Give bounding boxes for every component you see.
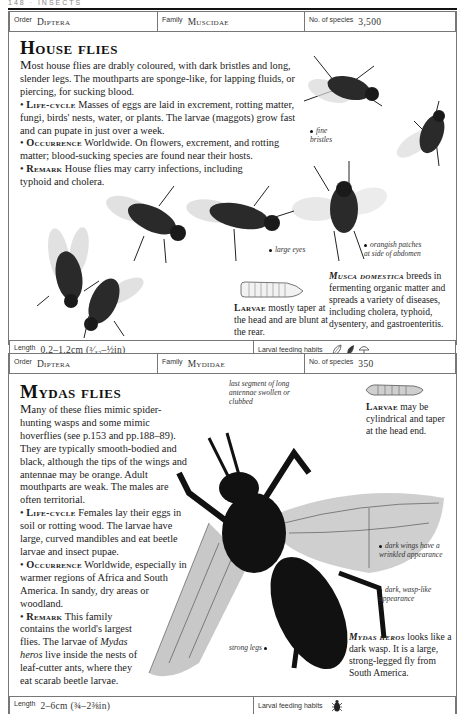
species-value: 3,500 xyxy=(358,17,381,27)
larvae-caption: Larvae mostly taper at the head and are … xyxy=(234,302,329,338)
entry-house-flies: Order Diptera Family Muscidae No. of spe… xyxy=(8,11,457,345)
callout-dot xyxy=(379,545,382,548)
beetle-icon xyxy=(332,699,342,712)
callout-dot xyxy=(379,589,382,592)
top-rule xyxy=(8,8,457,10)
callout-wasp-like: dark, wasp-like appearance xyxy=(379,585,449,603)
entry-mydas-flies: Order Diptera Family Mydidae No. of spec… xyxy=(8,353,457,714)
callout-strong-legs: strong legs xyxy=(229,643,270,652)
feeding-label: Larval feeding habits xyxy=(258,702,323,709)
entry-body: Most house flies are drably coloured, wi… xyxy=(20,59,310,189)
callout-dot xyxy=(264,647,267,650)
family-value: Mydidae xyxy=(188,359,225,369)
classification-bar: Order Diptera Family Mydidae No. of spec… xyxy=(9,353,456,374)
callout-large-eyes: large eyes xyxy=(269,245,305,254)
running-head: 148 · INSECTS xyxy=(8,0,82,6)
family-value: Muscidae xyxy=(188,17,229,27)
callout-antennae: last segment of long antennae swollen or… xyxy=(229,379,304,406)
family-label: Family xyxy=(162,16,183,23)
order-value: Diptera xyxy=(37,359,70,369)
feeding-icons xyxy=(332,699,342,712)
callout-fine-bristles: fine bristles xyxy=(310,126,340,144)
callout-dot xyxy=(310,130,313,133)
house-fly-illustration-top-right xyxy=(304,46,394,116)
species-value: 350 xyxy=(358,359,373,369)
family-label: Family xyxy=(162,358,183,365)
length-label: Length xyxy=(14,700,35,707)
callout-dot xyxy=(364,244,367,247)
callout-dot xyxy=(269,249,272,252)
callout-orangish-patches: orangish patches at side of abdomen xyxy=(364,240,424,258)
order-value: Diptera xyxy=(37,17,70,27)
species-label: No. of species xyxy=(309,358,353,365)
order-cell: Order Diptera xyxy=(10,12,158,31)
callout-dark-wings: dark wings have a wrinkled appearance xyxy=(379,541,444,559)
classification-bar: Order Diptera Family Muscidae No. of spe… xyxy=(9,11,456,32)
family-cell: Family Mydidae xyxy=(158,354,305,373)
species-caption: Mydas heros looks like a dark wasp. It i… xyxy=(349,631,454,679)
entry-title: House flies xyxy=(20,37,118,59)
order-label: Order xyxy=(14,358,32,365)
section-remark: • Remark This family contains the world'… xyxy=(20,611,145,688)
length-value: 2–6cm (¾–2⅜in) xyxy=(40,701,110,711)
section-life-cycle: • Life-cycle Masses of eggs are laid in … xyxy=(20,99,310,138)
section-occurrence: • Occurrence Worldwide. On flowers, excr… xyxy=(20,137,310,163)
larvae-caption: Larvae may be cylindrical and taper at t… xyxy=(366,401,448,437)
species-cell: No. of species 350 xyxy=(305,354,455,373)
house-fly-larva-illustration xyxy=(239,281,304,299)
feeding-label: Larval feeding habits xyxy=(258,346,323,353)
length-label: Length xyxy=(14,344,35,351)
species-label: No. of species xyxy=(309,16,353,23)
species-cell: No. of species 3,500 xyxy=(305,12,455,31)
entry-footer: Length 2–6cm (¾–2⅜in) Larval feeding hab… xyxy=(9,696,456,714)
feeding-cell: Larval feeding habits xyxy=(254,697,455,714)
intro-paragraph: Most house flies are drably coloured, wi… xyxy=(20,59,310,99)
entry-title: Mydas flies xyxy=(20,381,121,403)
species-caption: Musca domestica breeds in fermenting org… xyxy=(329,270,451,330)
length-cell: Length 2–6cm (¾–2⅜in) xyxy=(10,697,254,714)
house-fly-illustration-far-right xyxy=(394,96,454,171)
order-label: Order xyxy=(14,16,32,23)
mydas-larva-illustration xyxy=(364,383,424,397)
order-cell: Order Diptera xyxy=(10,354,158,373)
family-cell: Family Muscidae xyxy=(158,12,305,31)
